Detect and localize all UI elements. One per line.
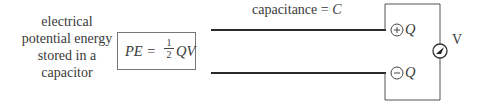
- circuit-diagram: [0, 0, 488, 108]
- voltmeter-label: V: [452, 32, 462, 48]
- top-charge-label: Q: [405, 21, 415, 38]
- minus-icon: [391, 67, 403, 79]
- bottom-charge-label: Q: [405, 64, 415, 81]
- plus-icon: [391, 24, 403, 36]
- voltmeter-icon: [433, 44, 447, 58]
